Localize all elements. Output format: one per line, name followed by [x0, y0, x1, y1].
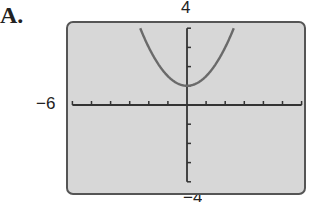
axes [72, 28, 301, 182]
graph-plot [0, 0, 314, 202]
